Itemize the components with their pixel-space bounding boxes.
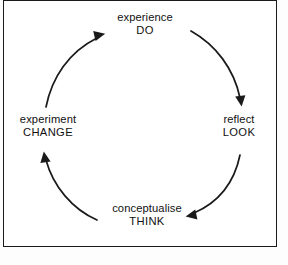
arrow-experience-to-reflect: [191, 31, 245, 107]
node-reflect-primary-label: reflect: [202, 113, 276, 126]
node-conceptualise: conceptualise THINK: [94, 202, 200, 228]
arrow-path-experiment-to-experience: [46, 38, 97, 107]
diagram-canvas: experience DO reflect LOOK conceptualise…: [0, 0, 288, 265]
node-experience-secondary-label: DO: [95, 24, 195, 37]
arrow-experiment-to-experience: [46, 31, 105, 107]
node-reflect: reflect LOOK: [202, 113, 276, 139]
arrowhead-experience-to-reflect: [235, 95, 245, 106]
node-experiment-primary-label: experiment: [4, 113, 92, 126]
node-experiment-secondary-label: CHANGE: [4, 126, 92, 139]
arrow-conceptualise-to-experiment: [40, 152, 97, 220]
arrowhead-conceptualise-to-experiment: [40, 152, 50, 163]
node-experience-primary-label: experience: [95, 11, 195, 24]
arrow-path-reflect-to-conceptualise: [194, 155, 240, 213]
arrow-path-conceptualise-to-experiment: [46, 160, 97, 220]
node-reflect-secondary-label: LOOK: [202, 126, 276, 139]
arrow-path-experience-to-reflect: [191, 31, 240, 98]
node-conceptualise-secondary-label: THINK: [94, 215, 200, 228]
node-experience: experience DO: [95, 11, 195, 37]
node-conceptualise-primary-label: conceptualise: [94, 202, 200, 215]
node-experiment: experiment CHANGE: [4, 113, 92, 139]
